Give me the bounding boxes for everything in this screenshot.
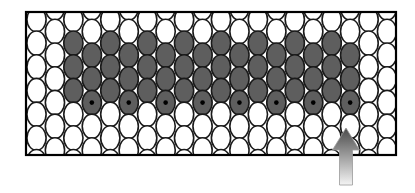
- light-ellipse: [138, 102, 157, 126]
- dark-ellipse: [156, 67, 175, 91]
- dark-ellipse: [285, 55, 304, 79]
- dark-ellipse: [341, 67, 360, 91]
- light-ellipse: [175, 126, 194, 150]
- light-ellipse: [359, 78, 378, 102]
- dark-ellipse: [175, 31, 194, 55]
- diagram-canvas: [0, 0, 415, 193]
- dark-ellipse: [138, 31, 157, 55]
- light-ellipse: [359, 55, 378, 79]
- dot-marker-icon: [200, 100, 205, 105]
- light-ellipse: [267, 114, 286, 138]
- light-ellipse: [193, 19, 212, 43]
- dark-ellipse: [211, 78, 230, 102]
- dark-ellipse: [101, 55, 120, 79]
- light-ellipse: [119, 19, 138, 43]
- dark-ellipse: [267, 67, 286, 91]
- dark-ellipse: [193, 43, 212, 67]
- light-ellipse: [267, 19, 286, 43]
- dark-ellipse: [304, 67, 323, 91]
- dark-ellipse: [175, 55, 194, 79]
- dark-ellipse: [64, 78, 83, 102]
- dot-marker-icon: [311, 100, 316, 105]
- light-ellipse: [64, 126, 83, 150]
- light-ellipse: [45, 19, 64, 43]
- light-ellipse: [27, 31, 46, 55]
- dark-ellipse: [322, 55, 341, 79]
- light-ellipse: [359, 102, 378, 126]
- dark-ellipse: [64, 55, 83, 79]
- light-ellipse: [377, 67, 396, 91]
- light-ellipse: [27, 126, 46, 150]
- light-ellipse: [285, 102, 304, 126]
- dark-ellipse: [119, 43, 138, 67]
- light-ellipse: [45, 114, 64, 138]
- light-ellipse: [304, 114, 323, 138]
- light-ellipse: [211, 126, 230, 150]
- dark-ellipse: [82, 43, 101, 67]
- light-ellipse: [341, 19, 360, 43]
- dot-marker-icon: [126, 100, 131, 105]
- light-ellipse: [211, 102, 230, 126]
- light-ellipse: [27, 78, 46, 102]
- dark-ellipse: [138, 55, 157, 79]
- light-ellipse: [248, 102, 267, 126]
- light-ellipse: [193, 114, 212, 138]
- light-ellipse: [230, 114, 249, 138]
- dark-ellipse: [248, 55, 267, 79]
- light-ellipse: [175, 102, 194, 126]
- light-ellipse: [359, 31, 378, 55]
- dark-ellipse: [101, 78, 120, 102]
- dot-marker-icon: [274, 100, 279, 105]
- light-ellipse: [377, 90, 396, 114]
- light-ellipse: [101, 126, 120, 150]
- dark-ellipse: [285, 78, 304, 102]
- light-ellipse: [27, 55, 46, 79]
- light-ellipse: [138, 126, 157, 150]
- dark-ellipse: [175, 78, 194, 102]
- dark-ellipse: [341, 43, 360, 67]
- dot-marker-icon: [163, 100, 168, 105]
- light-ellipse: [322, 102, 341, 126]
- light-ellipse: [377, 19, 396, 43]
- dark-ellipse: [101, 31, 120, 55]
- dark-ellipse: [138, 78, 157, 102]
- light-ellipse: [377, 114, 396, 138]
- light-ellipse: [82, 114, 101, 138]
- dot-marker-icon: [90, 100, 95, 105]
- dark-ellipse: [322, 31, 341, 55]
- dark-ellipse: [230, 43, 249, 67]
- light-ellipse: [45, 90, 64, 114]
- light-ellipse: [304, 19, 323, 43]
- dark-ellipse: [211, 31, 230, 55]
- dark-ellipse: [64, 31, 83, 55]
- light-ellipse: [27, 102, 46, 126]
- dark-ellipse: [248, 31, 267, 55]
- dark-ellipse: [322, 78, 341, 102]
- dark-ellipse: [119, 67, 138, 91]
- dark-ellipse: [248, 78, 267, 102]
- light-ellipse: [45, 67, 64, 91]
- dark-ellipse: [304, 43, 323, 67]
- light-ellipse: [156, 19, 175, 43]
- light-ellipse: [82, 19, 101, 43]
- dark-ellipse: [230, 67, 249, 91]
- dot-marker-icon: [237, 100, 242, 105]
- light-ellipse: [156, 114, 175, 138]
- dark-ellipse: [193, 67, 212, 91]
- light-ellipse: [101, 102, 120, 126]
- ellipse-grid-diagram: Honeycomb-like grid of ellipses inside a…: [0, 0, 415, 193]
- dark-ellipse: [82, 67, 101, 91]
- dark-ellipse: [211, 55, 230, 79]
- light-ellipse: [119, 114, 138, 138]
- dot-marker-icon: [348, 100, 353, 105]
- dark-ellipse: [267, 43, 286, 67]
- light-ellipse: [285, 126, 304, 150]
- light-ellipse: [248, 126, 267, 150]
- dark-ellipse: [156, 43, 175, 67]
- light-ellipse: [377, 43, 396, 67]
- light-ellipse: [359, 126, 378, 150]
- light-ellipse: [230, 19, 249, 43]
- light-ellipse: [45, 43, 64, 67]
- dark-ellipse: [285, 31, 304, 55]
- light-ellipse: [64, 102, 83, 126]
